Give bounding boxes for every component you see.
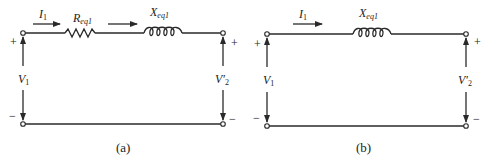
plus-sign-right-b: + [474, 35, 481, 49]
minus-sign-left-a: − [9, 109, 16, 123]
terminal-icon [265, 124, 270, 129]
plus-sign-left-b: + [254, 37, 261, 51]
terminal-icon [221, 31, 226, 36]
output-voltage-label-b: V′2 [458, 73, 472, 88]
reactance-label-a: Xeq1 [149, 5, 169, 20]
output-voltage-label-a: V′2 [215, 72, 229, 87]
terminal-icon [265, 32, 270, 37]
inductor-icon [353, 28, 391, 36]
circuit-a: I1 Req1 Xeq1 V1 V′2 + − + − (a) [9, 5, 238, 155]
resistor-label-a: Req1 [72, 11, 92, 26]
inductor-icon [144, 27, 182, 35]
terminal-icon [21, 31, 26, 36]
terminal-icon [464, 124, 469, 129]
caption-a: (a) [116, 140, 130, 155]
terminal-icon [221, 122, 226, 127]
terminal-icon [464, 32, 469, 37]
resistor-icon [65, 29, 95, 37]
minus-sign-right-b: − [473, 112, 480, 126]
caption-b: (b) [356, 140, 371, 155]
current-label-a: I1 [38, 7, 47, 22]
reactance-label-b: Xeq1 [358, 6, 378, 21]
minus-sign-right-a: − [229, 112, 236, 126]
plus-sign-right-a: + [231, 36, 238, 50]
current-label-b: I1 [298, 7, 307, 22]
input-voltage-label-a: V1 [18, 72, 29, 87]
minus-sign-left-b: − [253, 111, 260, 125]
circuit-diagrams: I1 Req1 Xeq1 V1 V′2 + − + − (a) I1 Xeq1 … [0, 0, 487, 161]
circuit-b: I1 Xeq1 V1 V′2 + − + − (b) [253, 6, 481, 155]
plus-sign-left-a: + [10, 35, 17, 49]
terminal-icon [21, 122, 26, 127]
input-voltage-label-b: V1 [263, 73, 274, 88]
